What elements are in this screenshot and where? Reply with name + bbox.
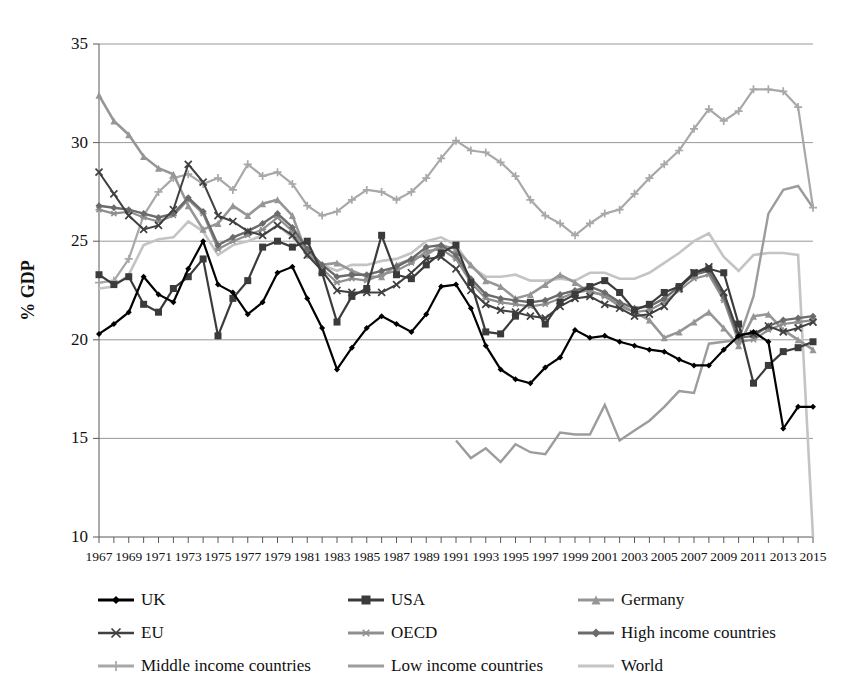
square-marker <box>110 281 117 288</box>
marker-triangle <box>229 202 236 209</box>
square-marker <box>155 309 162 316</box>
square-marker <box>586 283 593 290</box>
legend-item-usa[interactable]: USA <box>346 583 576 616</box>
square-marker <box>319 269 326 276</box>
marker-plus <box>393 196 401 204</box>
marker-asterisk <box>334 280 341 285</box>
x-tick-label: 2015 <box>800 549 827 564</box>
diamond-marker <box>112 596 120 604</box>
square-marker <box>765 362 772 369</box>
marker-triangle <box>705 309 712 316</box>
square-marker <box>348 293 355 300</box>
diamond-marker <box>110 204 117 211</box>
x-tick-label: 1999 <box>562 549 589 564</box>
legend-item-world[interactable]: World <box>576 649 806 682</box>
x-tick-label: 1985 <box>353 549 380 564</box>
x-marker <box>661 303 668 310</box>
marker-square <box>616 289 623 296</box>
marker-square <box>631 307 638 314</box>
marker-square <box>676 283 683 290</box>
legend-item-eu[interactable]: EU <box>96 616 346 649</box>
marker-square <box>735 321 742 328</box>
marker-square <box>572 291 579 298</box>
marker-asterisk <box>259 227 266 232</box>
square-marker <box>170 285 177 292</box>
marker-square <box>453 242 460 249</box>
square-marker <box>96 271 103 278</box>
x-tick-label: 2001 <box>591 549 618 564</box>
legend-label: EU <box>141 623 164 643</box>
marker-diamond <box>602 333 608 339</box>
square-marker <box>661 289 668 296</box>
marker-asterisk <box>362 629 371 635</box>
marker-square <box>140 301 147 308</box>
marker-square <box>378 232 385 239</box>
legend-item-middle-income-countries[interactable]: Middle income countries <box>96 649 346 682</box>
x-tick-label: 1973 <box>175 549 202 564</box>
legend-label: High income countries <box>621 623 776 643</box>
legend-label: Low income countries <box>391 656 543 676</box>
marker-x <box>453 265 460 272</box>
legend-item-germany[interactable]: Germany <box>576 583 806 616</box>
diamond-marker <box>592 628 601 637</box>
y-tick-label: 35 <box>71 34 88 53</box>
diamond-marker <box>691 362 697 368</box>
marker-square <box>586 283 593 290</box>
legend-item-oecd[interactable]: OECD <box>346 616 576 649</box>
x-tick-label: 2009 <box>710 549 737 564</box>
legend-item-low-income-countries[interactable]: Low income countries <box>346 649 576 682</box>
x-tick-label: 1967 <box>86 549 113 564</box>
square-marker <box>304 238 311 245</box>
chart-legend: UKUSAGermanyEUOECDHigh income countriesM… <box>96 583 796 682</box>
legend-marker-none-icon <box>346 657 386 675</box>
square-marker <box>572 291 579 298</box>
marker-square <box>96 271 103 278</box>
square-marker <box>497 330 504 337</box>
marker-square <box>244 277 251 284</box>
legend-label: USA <box>391 590 425 610</box>
marker-square <box>691 269 698 276</box>
marker-square <box>408 275 415 282</box>
marker-plus <box>764 85 772 93</box>
triangle-marker <box>229 202 236 209</box>
x-tick-label: 1995 <box>502 549 529 564</box>
plus-marker <box>393 196 401 204</box>
x-tick-label: 2013 <box>770 549 797 564</box>
legend-item-high-income-countries[interactable]: High income countries <box>576 616 806 649</box>
legend-item-uk[interactable]: UK <box>96 583 346 616</box>
y-tick-label: 20 <box>71 330 88 349</box>
marker-diamond <box>691 362 697 368</box>
marker-plus <box>378 188 386 196</box>
asterisk-marker <box>362 629 371 635</box>
diamond-marker <box>646 347 652 353</box>
marker-x <box>110 190 117 197</box>
square-marker <box>557 299 564 306</box>
square-marker <box>215 332 222 339</box>
x-tick-label: 1981 <box>294 549 321 564</box>
x-marker <box>393 281 400 288</box>
square-marker <box>423 261 430 268</box>
diamond-marker <box>602 333 608 339</box>
legend-marker-diamond-icon <box>576 624 616 642</box>
square-marker <box>244 277 251 284</box>
square-marker <box>482 328 489 335</box>
marker-square <box>646 301 653 308</box>
marker-square <box>200 255 207 262</box>
square-marker <box>140 301 147 308</box>
diamond-marker <box>810 404 816 410</box>
marker-square <box>319 269 326 276</box>
x-marker <box>110 190 117 197</box>
square-marker <box>735 321 742 328</box>
y-tick-label: 10 <box>71 527 88 546</box>
series-germany <box>96 92 817 353</box>
marker-square <box>765 362 772 369</box>
x-tick-label: 1975 <box>205 549 232 564</box>
marker-asterisk <box>110 211 117 216</box>
square-marker <box>334 319 341 326</box>
x-tick-label: 1971 <box>145 549 172 564</box>
x-tick-label: 1991 <box>443 549 470 564</box>
square-marker <box>289 244 296 251</box>
legend-label: UK <box>141 590 166 610</box>
marker-square <box>557 299 564 306</box>
marker-square <box>720 269 727 276</box>
